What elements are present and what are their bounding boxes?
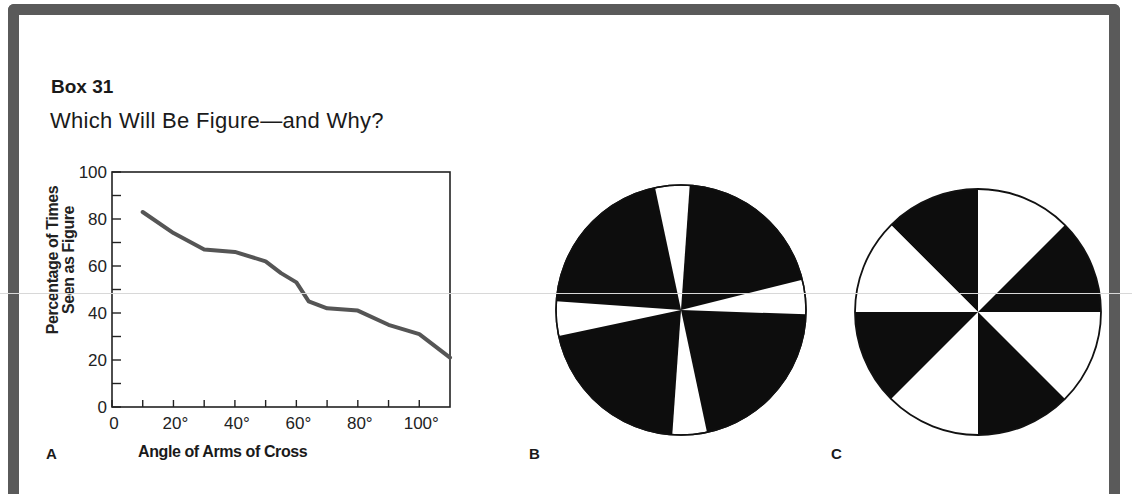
x-tick-label: 20° (163, 414, 189, 433)
x-tick-label: 100° (404, 414, 439, 433)
x-tick-label: 80° (347, 414, 373, 433)
sector-figure-c (851, 181, 1105, 443)
y-tick-label: 60 (88, 257, 107, 276)
panel-letter-b: B (529, 445, 540, 462)
y-axis-title: Seen as Figure (60, 205, 77, 314)
plot-area (112, 172, 450, 407)
x-tick-label: 40° (224, 414, 250, 433)
y-tick-label: 0 (98, 398, 107, 417)
x-tick-label: 60° (286, 414, 312, 433)
y-tick-label: 20 (88, 351, 107, 370)
cross-figure-b (553, 181, 809, 439)
x-axis-title: Angle of Arms of Cross (138, 443, 307, 461)
panel-letter-c: C (831, 445, 842, 462)
y-tick-label: 40 (88, 304, 107, 323)
y-tick-label: 100 (79, 163, 107, 182)
panel-letter-a: A (46, 445, 57, 462)
scan-artifact-line (0, 293, 1132, 294)
y-axis-title: Percentage of Times (44, 185, 61, 334)
x-tick-label: 0 (109, 414, 118, 433)
y-tick-label: 80 (88, 210, 107, 229)
data-line (143, 212, 450, 358)
